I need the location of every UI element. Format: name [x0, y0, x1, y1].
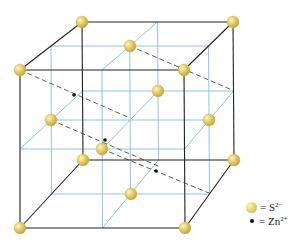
sulfide-ion-ball [45, 114, 57, 126]
sulfide-ion-ball [228, 154, 240, 166]
sulfide-ion-ball [96, 143, 108, 155]
zinc-dot-icon [250, 219, 254, 223]
sulfide-ball-icon [246, 202, 257, 213]
legend: = S2− = Zn2+ [246, 200, 288, 228]
sulfide-ion-ball [14, 64, 26, 76]
tetrahedral-bond-line [51, 120, 158, 166]
sulfide-ion-ball [152, 85, 164, 97]
sulfide-ion-ball [14, 222, 26, 234]
sulfide-ion-ball [179, 222, 191, 234]
legend-item-zinc: = Zn2+ [246, 214, 288, 228]
sulfide-ion-ball [124, 40, 136, 52]
sulfide-ion-ball [178, 64, 190, 76]
cube-edge [233, 22, 234, 160]
sulfide-ion-ball [227, 16, 239, 28]
zinc-ion-dot [154, 169, 158, 173]
legend-label: = S2− [260, 201, 283, 213]
legend-item-sulfide: = S2− [246, 200, 288, 214]
legend-label: = Zn2+ [259, 215, 288, 227]
sulfide-ion-ball [77, 154, 89, 166]
sulfide-ion-ball [125, 188, 137, 200]
sulfide-ion-ball [203, 114, 215, 126]
zinc-ions [72, 66, 182, 173]
cube-edge [184, 70, 185, 228]
sulfide-ion-ball [76, 16, 88, 28]
cube-edge [82, 22, 83, 160]
zinc-ion-dot [103, 138, 107, 142]
zinc-ion-dot [72, 93, 76, 97]
